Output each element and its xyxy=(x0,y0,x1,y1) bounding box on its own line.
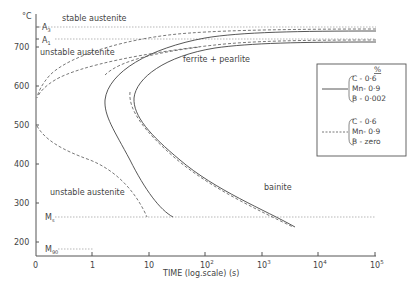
x-tick-1: 1 xyxy=(90,261,95,270)
legend-solid-b: B - 0·002 xyxy=(352,94,386,103)
legend-solid-mn: Mn- 0·9 xyxy=(352,84,380,93)
legend-solid-c: C - 0·6 xyxy=(352,74,377,83)
m90-label: M90 xyxy=(45,245,58,255)
legend-header: % xyxy=(374,65,381,74)
legend-dashed-b: B - zero xyxy=(352,137,381,146)
y-tick-700: 700 xyxy=(14,43,29,52)
x-tick-10000: 104 xyxy=(313,259,327,270)
legend-dashed-mn: Mn- 0·9 xyxy=(352,127,380,136)
x-axis-title: TIME (log.scale) (s) xyxy=(162,269,239,278)
legend-dashed-c: C - 0·6 xyxy=(352,117,377,126)
a3-label: A3 xyxy=(42,23,51,33)
x-tick-0: 0 xyxy=(33,261,38,270)
y-tick-600: 600 xyxy=(14,82,29,91)
legend: % C - 0·6 Mn- 0·9 B - 0·002 C - 0·6 Mn- … xyxy=(317,64,406,156)
y-tick-500: 500 xyxy=(14,121,29,130)
region-unstable-austenite-bottom: unstable austenite xyxy=(50,188,125,197)
region-stable-austenite: stable austenite xyxy=(62,14,127,23)
x-tick-100000: 105 xyxy=(370,259,384,270)
y-tick-400: 400 xyxy=(14,160,29,169)
x-tick-1000: 103 xyxy=(257,259,271,270)
ms-label: Ms xyxy=(45,213,55,223)
y-tick-200: 200 xyxy=(14,238,29,247)
x-tick-10: 10 xyxy=(144,261,154,270)
region-bainite: bainite xyxy=(264,183,292,192)
y-unit-label: °C xyxy=(22,12,32,21)
ttt-diagram: °C 700 600 500 400 300 200 0 1 10 102 10… xyxy=(0,0,417,293)
region-ferrite-pearlite: ferrite + pearlite xyxy=(183,55,250,64)
region-unstable-austenite-top: unstable austenite xyxy=(40,48,115,57)
y-tick-300: 300 xyxy=(14,199,29,208)
a1-label: A1 xyxy=(42,36,51,46)
